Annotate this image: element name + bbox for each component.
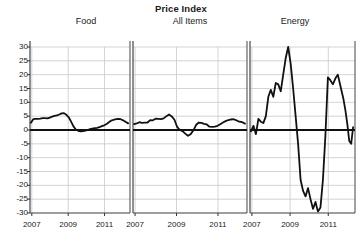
x-tick-label: 2007	[17, 221, 47, 229]
x-tick-label: 2011	[203, 221, 233, 229]
x-tick-label: 2011	[313, 221, 343, 229]
x-tick-label: 2007	[237, 221, 267, 229]
price-index-chart: Price Index Food All Items Energy 302520…	[0, 0, 362, 249]
x-tick-label: 2007	[120, 221, 150, 229]
plot-area	[0, 0, 362, 249]
x-tick-label: 2009	[162, 221, 192, 229]
x-tick-label: 2009	[53, 221, 83, 229]
x-tick-label: 2009	[275, 221, 305, 229]
x-tick-label: 2011	[90, 221, 120, 229]
